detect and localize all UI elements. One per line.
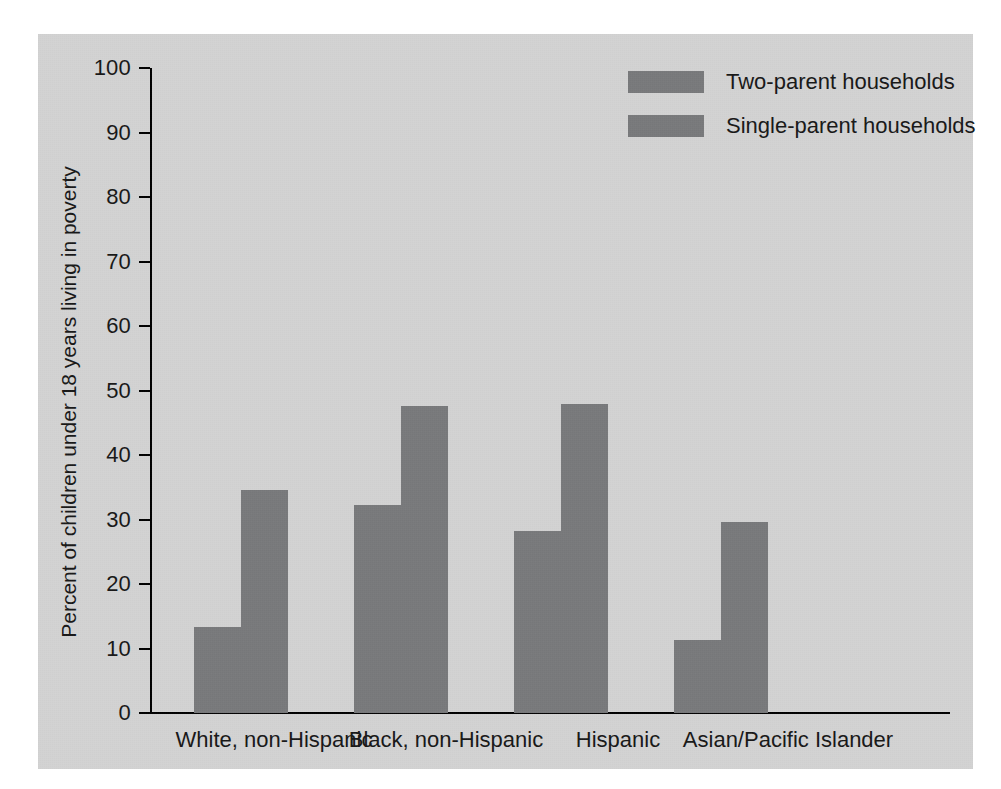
y-tick-label-50: 50 (106, 378, 131, 404)
y-tick-20: 20 (139, 583, 150, 585)
y-axis-title-text: Percent of children under 18 years livin… (57, 166, 81, 638)
y-tick-label-40: 40 (106, 442, 131, 468)
bar (241, 490, 288, 713)
y-tick-label-0: 0 (119, 700, 131, 726)
y-tick-80: 80 (139, 196, 150, 198)
y-tick-label-80: 80 (106, 184, 131, 210)
bar (721, 522, 768, 713)
y-tick-label-20: 20 (106, 571, 131, 597)
y-tick-label-100: 100 (94, 55, 131, 81)
x-axis-label: Hispanic (576, 727, 660, 753)
y-tick-30: 30 (139, 519, 150, 521)
y-tick-label-60: 60 (106, 313, 131, 339)
bar (674, 640, 721, 713)
plot-area: 1009080706050403020100 White, non-Hispan… (150, 68, 950, 713)
y-tick-100: 100 (139, 67, 150, 69)
y-tick-70: 70 (139, 261, 150, 263)
y-tick-label-70: 70 (106, 249, 131, 275)
y-axis-line (150, 68, 152, 713)
bar (194, 627, 241, 713)
chart-figure: Percent of children under 18 years livin… (38, 34, 973, 769)
y-tick-label-10: 10 (106, 636, 131, 662)
bar (561, 404, 608, 713)
y-tick-40: 40 (139, 454, 150, 456)
y-axis-title: Percent of children under 18 years livin… (52, 34, 86, 769)
y-tick-10: 10 (139, 648, 150, 650)
y-tick-60: 60 (139, 325, 150, 327)
y-tick-label-30: 30 (106, 507, 131, 533)
bar (354, 505, 401, 713)
x-axis-label: Black, non-Hispanic (349, 727, 543, 753)
y-tick-90: 90 (139, 132, 150, 134)
x-axis-label: Asian/Pacific Islander (683, 727, 893, 753)
bar (401, 406, 448, 713)
y-tick-0: 0 (139, 712, 150, 714)
y-tick-50: 50 (139, 390, 150, 392)
x-axis-label: White, non-Hispanic (176, 727, 373, 753)
bar (514, 531, 561, 713)
y-tick-label-90: 90 (106, 120, 131, 146)
